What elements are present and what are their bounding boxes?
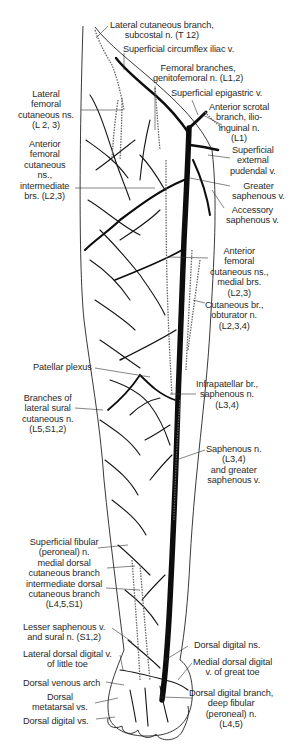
label-anterior-femoral-cutaneous-medial: Anterior femoral cutaneous ns., medial b… [210,246,268,298]
label-superficial-external-pudendal: Superficial external pudendal v. [230,145,276,176]
label-lateral-dorsal-digital-little-toe: Lateral dorsal digital v. of little toe [23,649,112,670]
label-lateral-sural-branches: Branches of lateral sural cutaneous n. (… [22,393,73,435]
label-dorsal-digital-veins: Dorsal digital vs. [23,716,89,726]
label-infrapatellar-saphenous: Infrapatellar br., saphenous n. (L3,4) [196,379,258,410]
label-superficial-circumflex-iliac: Superficial circumflex iliac v. [123,44,234,54]
label-lesser-saphenous-sural: Lesser saphenous v. and sural n. (S1,2) [23,622,105,643]
anatomy-figure: Lateral cutaneous branch, subcostal n. (… [0,0,298,752]
label-dorsal-digital-nerves: Dorsal digital ns. [194,640,260,650]
label-superficial-epigastric: Superficial epigastric v. [171,88,262,98]
label-dorsal-venous-arch: Dorsal venous arch [23,678,100,688]
label-patellar-plexus: Patellar plexus [33,362,92,372]
label-femoral-branches-genitofemoral: Femoral branches, genitofemoral n. (L1,2… [153,63,243,84]
label-lateral-femoral-cutaneous: Lateral femoral cutaneous ns. (L 2, 3) [18,89,74,131]
label-anterior-femoral-cutaneous-intermediate: Anterior femoral cutaneous ns., intermed… [20,139,69,201]
label-greater-saphenous: Greater saphenous v. [232,181,285,202]
label-dorsal-digital-branch-deep-fibular: Dorsal digital branch, deep fibular (per… [189,688,273,730]
label-anterior-scrotal-ilioinguinal: Anterior scrotal branch, ilio- inguinal … [209,102,269,144]
label-cutaneous-br-obturator: Cutaneous br., obturator n. (L2,3,4) [205,300,263,331]
label-accessory-saphenous: Accessory saphenous v. [226,205,279,226]
label-lateral-cutaneous-subcostal: Lateral cutaneous branch, subcostal n. (… [110,20,214,41]
label-dorsal-metatarsal-veins: Dorsal metatarsal vs. [32,692,88,713]
label-superficial-fibular: Superficial fibular (peroneal) n. medial… [26,537,102,610]
label-medial-dorsal-digital-great-toe: Medial dorsal digital v. of great toe [193,657,272,678]
label-saphenous-n-greater-saphenous-v: Saphenous n. (L3,4) and greater saphenou… [206,444,262,486]
cutaneous-nerves [95,30,222,680]
